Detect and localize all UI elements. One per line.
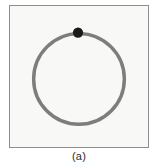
figure-canvas — [10, 6, 148, 147]
figure-panel — [9, 5, 149, 148]
figure-caption: (a) — [0, 149, 158, 163]
figure-container: (a) — [0, 0, 158, 168]
circular-loop-shape — [34, 34, 125, 125]
bead-marker-dot — [73, 27, 83, 37]
